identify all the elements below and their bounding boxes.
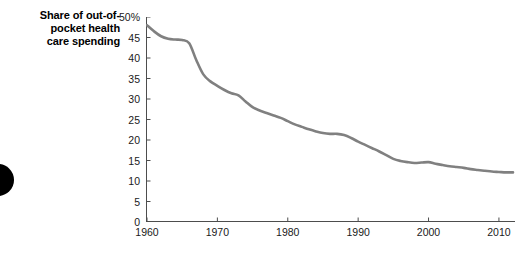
y-tick-label: 45 [104, 32, 140, 44]
x-tick-label: 1980 [276, 226, 299, 238]
x-tick-label: 2010 [487, 226, 510, 238]
y-tick-label: 15 [104, 155, 140, 167]
chart-figure: Share of out-of- pocket health care spen… [0, 0, 521, 257]
y-tick-label: 5 [104, 196, 140, 208]
y-tick-label: 50% [104, 11, 140, 23]
axes-group [147, 17, 516, 222]
line-chart-svg [146, 17, 515, 222]
y-tick-label: 25 [104, 114, 140, 126]
y-tick-label: 20 [104, 134, 140, 146]
x-tick-label: 1990 [346, 226, 369, 238]
x-tick-label: 2000 [417, 226, 440, 238]
x-tick-label: 1960 [135, 226, 158, 238]
data-line-out-of-pocket-share [147, 25, 513, 172]
y-tick-label: 10 [104, 175, 140, 187]
y-axis-ticks [147, 17, 151, 222]
y-tick-label: 35 [104, 73, 140, 85]
x-axis-ticks [147, 218, 499, 222]
y-tick-label: 40 [104, 52, 140, 64]
x-tick-label: 1970 [206, 226, 229, 238]
black-circle-mark [0, 164, 14, 196]
plot-area: 50%454035302520151050 196019701980199020… [146, 17, 515, 222]
y-tick-label: 30 [104, 93, 140, 105]
